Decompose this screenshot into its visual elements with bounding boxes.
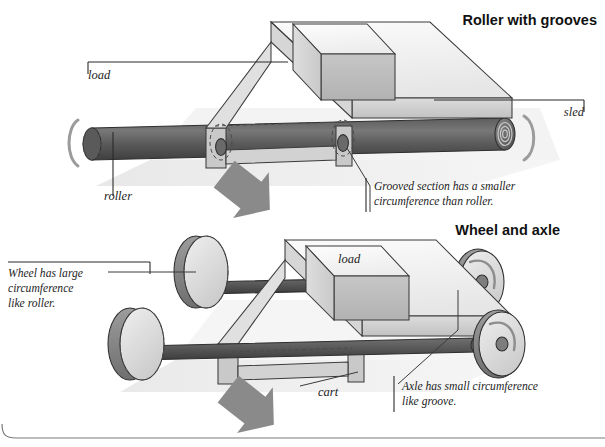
note-wheel-line1: Wheel has large	[8, 267, 83, 280]
note-axle-line2: like groove.	[402, 395, 456, 408]
figure-canvas: Roller with grooves load sled roller Gro…	[0, 0, 605, 447]
cart-load-front-face	[334, 276, 409, 320]
section-title-wheel-axle: Wheel and axle	[455, 222, 560, 238]
label-roller: roller	[104, 189, 132, 203]
groove-left	[216, 139, 227, 156]
groove-right	[338, 135, 349, 152]
note-wheel-line2: circumference	[8, 282, 73, 295]
note-grooved-section-line2: circumference than roller.	[374, 195, 493, 208]
load-front-face	[321, 54, 395, 100]
wheel-front-left	[108, 308, 164, 380]
section-title-roller: Roller with grooves	[462, 12, 597, 28]
wheel-front-right	[473, 310, 525, 378]
wheel-front-right-hub	[496, 337, 508, 351]
label-load-cart: load	[338, 252, 361, 266]
note-wheel-line3: like roller.	[8, 297, 55, 310]
note-axle-line1: Axle has small circumference	[401, 380, 538, 393]
label-load-roller: load	[88, 68, 111, 82]
note-grooved-section-line1: Grooved section has a smaller	[374, 180, 516, 193]
label-sled: sled	[564, 105, 585, 119]
sled-front-face	[352, 98, 512, 118]
label-cart: cart	[318, 385, 339, 399]
